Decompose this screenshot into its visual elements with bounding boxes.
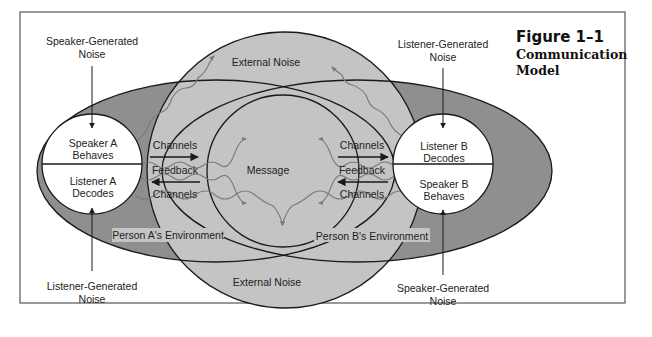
listener-b-label-2: Decodes xyxy=(423,152,464,164)
left-channels-top-label: Channels xyxy=(153,139,197,151)
speaker-b-noise-label-1: Speaker-Generated xyxy=(397,282,489,294)
external-noise-bottom-label: External Noise xyxy=(233,276,301,288)
person-a-circle xyxy=(42,114,142,214)
listener-a-label-1: Listener A xyxy=(70,175,117,187)
figure-title-line-1: Communication xyxy=(516,47,627,62)
speaker-b-label-1: Speaker B xyxy=(419,178,468,190)
listener-a-label-2: Decodes xyxy=(72,187,113,199)
listener-a-noise-label-1: Listener-Generated xyxy=(47,280,138,292)
communication-model-diagram: Speaker-Generated Noise Listener-Generat… xyxy=(0,0,652,337)
speaker-b-label-2: Behaves xyxy=(424,190,465,202)
listener-b-noise-label-1: Listener-Generated xyxy=(398,38,489,50)
listener-a-noise-label-2: Noise xyxy=(79,293,106,305)
left-channels-bottom-label: Channels xyxy=(153,188,197,200)
speaker-a-label-2: Behaves xyxy=(73,149,114,161)
message-label: Message xyxy=(247,164,290,176)
person-a-environment-label: Person A's Environment xyxy=(112,229,224,241)
external-noise-top-label: External Noise xyxy=(232,56,300,68)
listener-b-noise-label-2: Noise xyxy=(430,51,457,63)
left-feedback-label: Feedback xyxy=(152,164,199,176)
speaker-a-noise-label-2: Noise xyxy=(79,48,106,60)
figure-title-line-2: Model xyxy=(516,63,560,78)
listener-b-label-1: Listener B xyxy=(420,140,467,152)
right-channels-bottom-label: Channels xyxy=(340,188,384,200)
speaker-a-label-1: Speaker A xyxy=(69,137,117,149)
figure-number: Figure 1–1 xyxy=(516,28,604,46)
speaker-a-noise-label-1: Speaker-Generated xyxy=(46,35,138,47)
speaker-b-noise-label-2: Noise xyxy=(430,295,457,307)
right-feedback-label: Feedback xyxy=(339,164,386,176)
person-b-environment-label: Person B's Environment xyxy=(316,230,428,242)
right-channels-top-label: Channels xyxy=(340,139,384,151)
